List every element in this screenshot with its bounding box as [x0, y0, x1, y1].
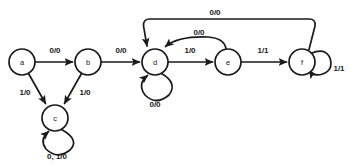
state-label-e: e: [226, 58, 230, 67]
edge-path-a-c: [29, 74, 46, 104]
edge-label-d-d: 0/0: [149, 100, 161, 109]
state-label-d: d: [153, 58, 157, 67]
transition-b-to-c: 1/0: [65, 74, 92, 104]
state-node-e[interactable]: e: [215, 49, 241, 75]
edge-label-e-d: 0/0: [193, 28, 205, 37]
state-node-d[interactable]: d: [142, 49, 168, 75]
state-label-b: b: [86, 58, 90, 67]
fsm-diagram: 0/0 0/0 0/0 0/0 1/0 1/1 1/: [0, 0, 351, 167]
edge-label-e-f: 1/1: [257, 46, 269, 55]
transition-a-to-b: 0/0: [35, 46, 72, 63]
transition-c-to-c: 0, 1/0: [43, 130, 74, 161]
edge-label-b-c: 1/0: [79, 88, 91, 97]
state-node-f[interactable]: f: [289, 49, 315, 75]
edge-path-d-d: [142, 74, 173, 101]
transition-b-to-d: 0/0: [101, 46, 139, 63]
edge-label-b-d: 0/0: [115, 46, 127, 55]
edge-label-f-d: 0/0: [209, 8, 221, 17]
edge-label-a-b: 0/0: [49, 46, 61, 55]
edge-label-a-c: 1/0: [19, 88, 31, 97]
state-node-b[interactable]: b: [75, 49, 101, 75]
edge-label-c-c: 0, 1/0: [47, 152, 68, 161]
state-node-a[interactable]: a: [9, 49, 35, 75]
edge-label-f-f: 1/1: [333, 64, 345, 73]
edge-path-e-d: [166, 37, 227, 49]
edge-label-d-e: 1/0: [184, 46, 196, 55]
state-node-c[interactable]: c: [42, 105, 68, 131]
transition-d-to-d: 0/0: [142, 74, 173, 109]
transition-e-to-f: 1/1: [241, 46, 286, 63]
transition-e-to-d: 0/0: [166, 28, 227, 49]
transition-d-to-e: 1/0: [168, 46, 212, 63]
edge-path-f-d: [143, 19, 315, 50]
state-diagram-canvas: 0/0 0/0 0/0 0/0 1/0 1/1 1/: [0, 0, 351, 167]
transition-a-to-c: 1/0: [19, 74, 45, 104]
state-label-c: c: [53, 114, 57, 123]
